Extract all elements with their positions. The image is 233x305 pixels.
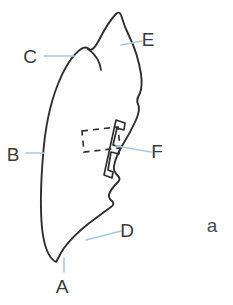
label-d: D	[120, 220, 134, 241]
arc-detail-path	[88, 49, 101, 70]
anatomical-outline-diagram: ABCDEF a	[0, 0, 233, 305]
label-a: A	[56, 276, 69, 297]
label-e: E	[142, 29, 155, 50]
leader-line-d	[86, 231, 121, 240]
panel-label: a	[207, 215, 218, 236]
label-b: B	[7, 144, 20, 165]
label-f: F	[151, 141, 163, 162]
label-c: C	[23, 46, 37, 67]
figure-panel: ABCDEF a	[0, 0, 233, 305]
